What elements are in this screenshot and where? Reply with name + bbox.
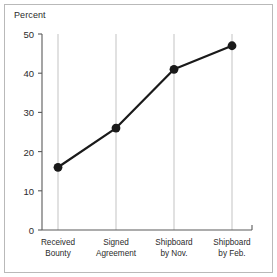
x-axis-tick-label-line: Bounty — [28, 249, 88, 260]
x-axis-tick-label: Shipboardby Nov. — [144, 238, 204, 259]
x-axis-tick-label: SignedAgreement — [86, 238, 146, 259]
plot-area: 01020304050ReceivedBountySignedAgreement… — [0, 0, 277, 277]
data-point-marker — [170, 65, 179, 74]
x-axis-tick-label-line: by Nov. — [144, 249, 204, 260]
chart-figure: Percent 01020304050ReceivedBountySignedA… — [0, 0, 277, 277]
y-axis-tick-label: 20 — [10, 146, 34, 157]
x-axis-tick-label: ReceivedBounty — [28, 238, 88, 259]
x-axis-tick-label-line: Signed — [86, 238, 146, 249]
line-chart-svg — [0, 0, 277, 277]
y-axis-tick-label: 0 — [10, 225, 34, 236]
y-axis-tick-label: 30 — [10, 107, 34, 118]
data-point-marker — [54, 163, 63, 172]
x-axis-tick-label-line: Shipboard — [144, 238, 204, 249]
y-axis-tick-label: 50 — [10, 29, 34, 40]
x-axis-tick-label-line: Received — [28, 238, 88, 249]
data-series-line — [58, 46, 232, 168]
y-axis-tick-label: 40 — [10, 68, 34, 79]
x-axis-tick-label-line: Shipboard — [202, 238, 262, 249]
y-axis-tick-label: 10 — [10, 185, 34, 196]
x-axis-tick-label-line: Agreement — [86, 249, 146, 260]
x-axis-tick-label-line: by Feb. — [202, 249, 262, 260]
data-point-marker — [112, 124, 121, 133]
x-axis-tick-label: Shipboardby Feb. — [202, 238, 262, 259]
data-point-marker — [228, 41, 237, 50]
